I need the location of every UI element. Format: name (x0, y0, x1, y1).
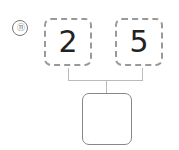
input-box-1: 2 (44, 18, 92, 66)
connector-center (106, 80, 107, 93)
result-answer-box[interactable] (82, 93, 132, 145)
problem-number-badge: ⑪ (12, 20, 28, 36)
input-box-2: 5 (115, 18, 163, 66)
connector-left (68, 68, 69, 80)
connector-right (142, 68, 143, 80)
